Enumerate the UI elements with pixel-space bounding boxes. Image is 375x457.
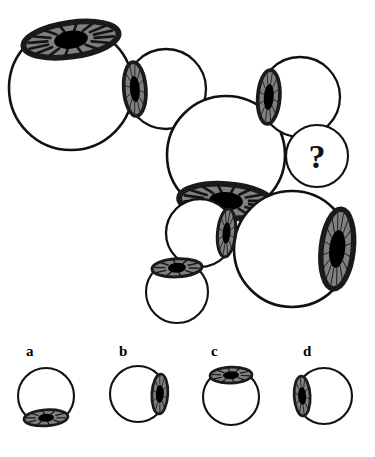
iris-group	[151, 374, 169, 415]
option-c-label: c	[211, 343, 218, 359]
option-b-eyeball[interactable]	[110, 366, 169, 422]
sequence-eye-7[interactable]	[166, 199, 238, 267]
sequence-eye-8[interactable]	[146, 258, 208, 323]
sequence-eye-1[interactable]	[9, 16, 133, 150]
iris-streak	[159, 404, 160, 412]
iris-group	[293, 376, 311, 417]
iris-streak	[155, 267, 165, 268]
sequence-eye-unknown[interactable]: ?	[286, 125, 348, 187]
option-d-eyeball[interactable]	[293, 368, 352, 424]
option-d-label: d	[303, 343, 312, 359]
puzzle-canvas: ? abcd	[0, 0, 375, 457]
question-mark: ?	[309, 138, 326, 175]
option-c-eyeball[interactable]	[203, 366, 259, 425]
option-b-label: b	[119, 343, 127, 359]
iris-streak	[159, 376, 160, 384]
option-a-eyeball[interactable]	[18, 368, 74, 427]
iris-streak	[26, 417, 35, 418]
iris-streak	[212, 374, 220, 375]
sequence-eye-4[interactable]	[256, 57, 340, 137]
iris-streak	[189, 267, 199, 268]
iris-streak	[241, 375, 249, 376]
iris-group	[210, 366, 253, 383]
sequence-eye-6[interactable]	[234, 191, 357, 307]
iris-streak	[57, 417, 66, 418]
option-a-label: a	[26, 343, 34, 359]
puzzle-illustration: ? abcd	[0, 0, 375, 457]
